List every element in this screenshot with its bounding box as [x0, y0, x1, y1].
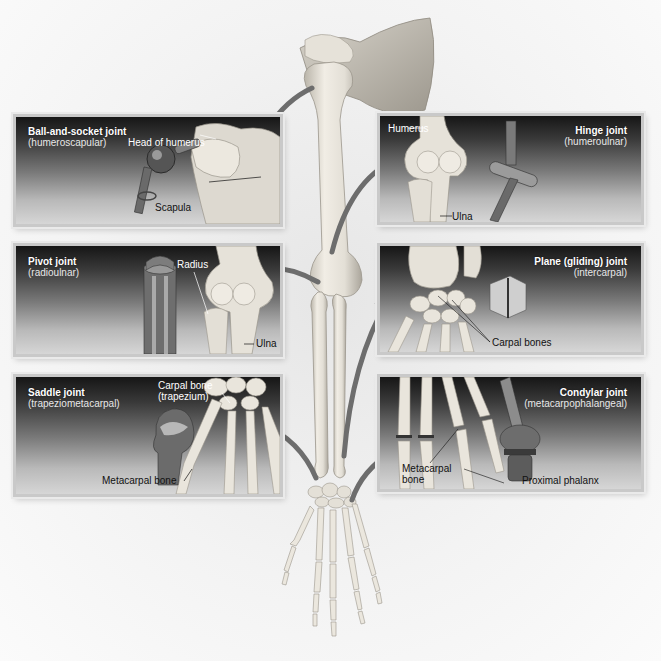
panel-saddle-joint: Saddle joint (trapeziometacarpal) Carpal…	[13, 374, 283, 497]
hand-phalanges	[282, 504, 382, 636]
label-humerus: Humerus	[388, 123, 429, 134]
label-ulna: Ulna	[452, 211, 473, 222]
panel-subtitle: (humeroscapular)	[28, 137, 106, 149]
panel-ball-and-socket-joint: Ball-and-socket joint (humeroscapular) H…	[13, 114, 283, 227]
panel-subtitle: (radioulnar)	[28, 267, 79, 279]
label-scapula: Scapula	[155, 202, 191, 213]
label-metacarpal: Metacarpal	[402, 463, 451, 474]
radius-bone	[311, 292, 328, 478]
panel-hinge-joint: Hinge joint (humeroulnar) Humerus Ulna	[377, 113, 644, 225]
label-bone: bone	[402, 474, 424, 485]
label-ulna: Ulna	[256, 338, 277, 349]
panel-subtitle: (intercarpal)	[574, 267, 627, 279]
panel-plane-gliding-joint: Plane (gliding) joint (intercarpal) Carp…	[377, 243, 644, 355]
carpal-bones	[308, 483, 356, 508]
panel-subtitle: (humeroulnar)	[564, 136, 627, 148]
label-carpal-bone: Carpal bone	[158, 380, 212, 391]
label-carpal-bones: Carpal bones	[492, 337, 551, 348]
panel-subtitle: (metacarpophalangeal)	[524, 398, 627, 410]
label-proximal-phalanx: Proximal phalanx	[522, 475, 599, 486]
label-head-of-humerus: Head of humerus	[128, 137, 205, 148]
panel-pivot-joint: Pivot joint (radioulnar) Radius Ulna	[13, 243, 283, 357]
panel-subtitle: (trapeziometacarpal)	[28, 398, 120, 410]
label-trapezium: (trapezium)	[158, 391, 209, 402]
panel-condylar-joint: Condylar joint (metacarpophalangeal) Met…	[377, 374, 644, 492]
label-radius: Radius	[177, 259, 208, 270]
label-metacarpal-bone: Metacarpal bone	[102, 475, 177, 486]
